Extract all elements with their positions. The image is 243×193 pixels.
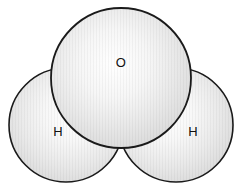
molecule-figure: O H H — [0, 0, 243, 193]
oxygen-texture — [52, 9, 190, 147]
hydrogen-right-label: H — [188, 124, 198, 139]
molecule-diagram: O H H — [0, 0, 243, 193]
atom-oxygen[interactable] — [51, 8, 191, 148]
oxygen-label: O — [116, 55, 126, 70]
hydrogen-left-label: H — [53, 124, 63, 139]
